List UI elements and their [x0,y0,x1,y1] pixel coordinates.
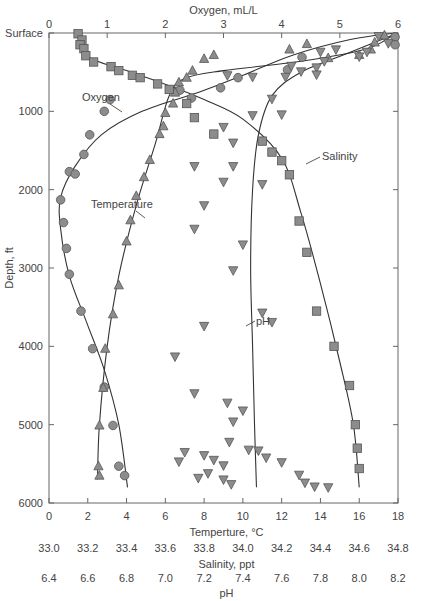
ph-marker [174,458,183,467]
salinity-marker [89,58,97,66]
oxygen-tick-label: 4 [279,18,285,30]
ph-marker [200,202,209,211]
ph-marker [190,163,199,172]
ph-marker [281,73,290,82]
salinity-marker [285,171,293,179]
bottom-tick-label: 6.6 [80,572,95,584]
salinity-marker [136,73,144,81]
bottom-tick-label: 34.2 [271,542,292,554]
ph-marker [238,241,247,250]
oxygen-marker [59,218,68,227]
ph-marker [223,72,232,81]
oxygen-tick-label: 3 [220,18,226,30]
oxygen-marker [85,131,94,140]
bottom-tick-label: 0 [46,510,52,522]
ph-marker [295,471,304,480]
series-annotation-ph: pH [256,315,270,327]
bottom-tick-label: 34.8 [387,542,408,554]
ph-marker [248,73,257,82]
temperature-marker [209,50,218,59]
temperature-marker [155,129,164,138]
ph-marker [258,181,267,190]
ph-marker [219,123,228,132]
ph-marker [262,454,271,463]
bottom-tick-label: 14 [314,510,326,522]
ph-marker [229,139,238,148]
bottom-tick-label: 6 [162,510,168,522]
ph-marker [248,112,257,121]
bottom-tick-label: 6.4 [41,572,56,584]
bottom-tick-label: 8.0 [352,572,367,584]
bottom-tick-label: 10 [237,510,249,522]
ph-marker [244,446,253,455]
bottom-tick-label: 33.6 [155,542,176,554]
salinity-marker [115,66,123,74]
bottom-tick-label: 8 [201,510,207,522]
ph-marker [180,448,189,457]
bottom-tick-label: 33.2 [77,542,98,554]
bottom-tick-label: 33.0 [38,542,59,554]
temperature-marker [122,236,131,245]
oxygen-marker [216,84,225,93]
depth-axis-title: Depth, ft [3,247,15,289]
ph-marker [170,353,179,362]
temperature-marker [95,471,104,480]
oxygen-marker [80,150,89,159]
plot-frame [49,33,398,503]
ph-marker [223,399,232,408]
ph-marker [229,418,238,427]
ph-marker [209,456,218,465]
bottom-axis-title: pH [219,587,233,599]
salinity-marker [303,248,311,256]
oxygen-marker [120,471,129,480]
salinity-marker [82,52,90,60]
oxygen-axis-title: Oxygen, mL/L [189,4,257,16]
ph-marker [190,390,199,399]
bottom-tick-label: 18 [392,510,404,522]
ph-marker [203,470,212,479]
series-annotation-temperature: Temperature [91,198,153,210]
ph-marker [277,459,286,468]
ph-marker [225,438,234,447]
ph-marker [300,479,309,488]
salinity-marker [153,80,161,88]
ph-marker [219,462,228,471]
oxygen-marker [109,421,118,430]
bottom-tick-label: 16 [353,510,365,522]
oxygen-marker [77,307,86,316]
bottom-tick-label: 34.0 [232,542,253,554]
oxygen-marker [62,244,71,253]
salinity-marker [258,137,266,145]
temperature-marker [108,309,117,318]
series-annotation-salinity: Salinity [322,150,358,162]
salinity-marker [182,99,190,107]
bottom-tick-label: 7.8 [313,572,328,584]
salinity-marker [312,307,320,315]
salinity-marker [355,464,363,472]
salinity-marker [268,148,276,156]
ph-marker [238,407,247,416]
temperature-marker [95,420,104,429]
axis-labels: 0123456Oxygen, mL/LSurface10002000300040… [3,4,409,599]
salinity-marker [277,156,285,164]
depth-profile-chart: 0123456Oxygen, mL/LSurface10002000300040… [0,0,422,601]
ph-marker [310,483,319,492]
salinity-marker [190,113,198,121]
salinity-marker [165,85,173,93]
bottom-tick-label: 7.6 [274,572,289,584]
ph-marker [200,322,209,331]
oxygen-marker [56,196,65,205]
salinity-marker [353,444,361,452]
bottom-tick-label: 8.2 [390,572,405,584]
ph-marker [227,481,236,490]
salinity-marker [295,217,303,225]
oxygen-tick-label: 1 [104,18,110,30]
depth-tick-label: 4000 [19,340,43,352]
ph-marker [312,71,321,80]
temperature-marker [101,344,110,353]
oxygen-tick-label: 6 [395,18,401,30]
bottom-tick-label: 7.4 [235,572,250,584]
bottom-tick-label: 6.8 [119,572,134,584]
salinity-marker [128,71,136,79]
salinity-marker [330,342,338,350]
